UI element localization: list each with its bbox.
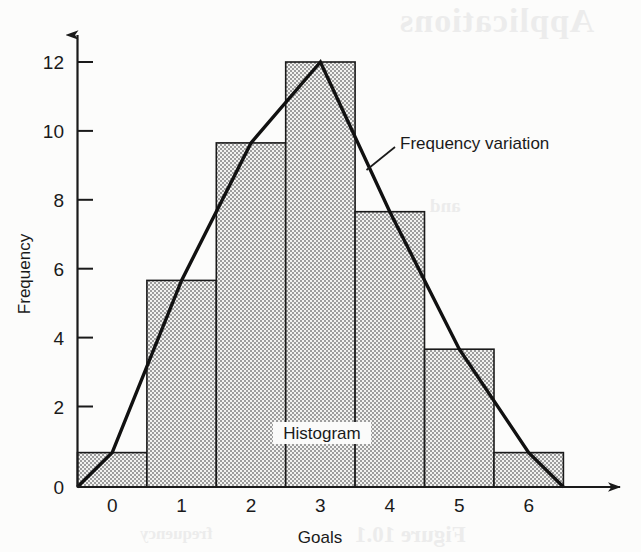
x-tick-label-4: 4 [385,495,396,516]
frequency-variation-leader-line [367,147,396,170]
bar-5 [425,349,494,487]
y-tick-labels: 12 10 8 6 4 2 0 [43,52,65,498]
y-tick-label-2: 2 [53,397,64,418]
x-tick-label-3: 3 [315,495,326,516]
y-tick-label-0: 0 [53,477,64,498]
bar-0 [78,453,147,487]
histogram-label: Histogram [283,424,360,443]
x-tick-labels: 0 1 2 3 4 5 6 [107,495,534,516]
x-axis-title: Goals [298,528,342,547]
y-tick-label-12: 12 [43,52,64,73]
x-tick-label-6: 6 [523,495,534,516]
figure-container: Applications and Figure 10.1 frequency [0,0,641,552]
bar-6 [494,453,563,487]
y-tick-label-4: 4 [53,328,64,349]
x-tick-label-2: 2 [246,495,257,516]
x-tick-label-0: 0 [107,495,118,516]
y-tick-label-6: 6 [53,259,64,280]
y-axis-ticks [78,62,94,407]
x-tick-label-5: 5 [454,495,465,516]
histogram-chart: 12 10 8 6 4 2 0 0 1 2 3 4 5 6 Frequency … [0,0,641,552]
x-tick-label-1: 1 [176,495,187,516]
bar-4 [355,212,424,487]
y-tick-label-10: 10 [43,121,64,142]
frequency-variation-label: Frequency variation [400,134,549,153]
y-axis-title: Frequency [15,233,34,314]
y-tick-label-8: 8 [53,190,64,211]
bar-1 [147,280,216,487]
